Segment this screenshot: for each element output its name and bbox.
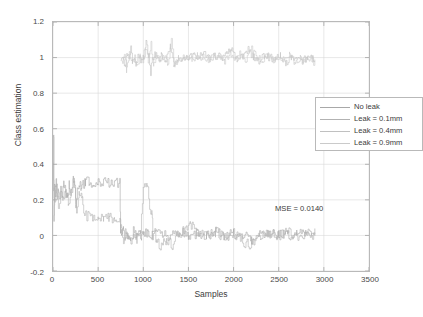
legend-item-leak-01mm: Leak = 0.1mm [316,113,422,125]
y-tick-label: 1 [40,52,44,61]
y-tick-label: 0.2 [33,196,44,205]
legend-swatch-leak-04mm [320,131,350,132]
x-tick-label: 1500 [179,275,197,284]
plot-area: MSE = 0.0140 No leak Leak = 0.1mm Leak =… [52,21,370,272]
y-tick-label: 0.4 [33,160,44,169]
legend-label-leak-04mm: Leak = 0.4mm [354,125,402,137]
x-tick-label: 0 [50,275,54,284]
x-tick-label: 2500 [270,275,288,284]
x-tick-label: 1000 [134,275,152,284]
y-tick-label: 0.6 [33,124,44,133]
x-tick-label: 3000 [316,275,334,284]
series-line [53,179,314,250]
legend-label-leak-01mm: Leak = 0.1mm [354,113,402,125]
y-tick-label: 1.2 [33,17,44,26]
y-tick-label: -0.2 [30,268,44,277]
y-tick-label: 0 [40,232,44,241]
legend-item-no-leak: No leak [316,101,422,113]
legend-swatch-leak-09mm [320,143,350,144]
x-tick-label: 2000 [225,275,243,284]
y-axis-tick-labels: -0.200.20.40.60.811.2 [0,21,49,272]
x-axis-tick-labels: 0500100015002000250030003500 [52,275,370,289]
series-line [121,40,315,75]
legend: No leak Leak = 0.1mm Leak = 0.4mm Leak =… [315,97,423,151]
y-tick-label: 0.8 [33,88,44,97]
legend-label-leak-09mm: Leak = 0.9mm [354,137,402,149]
mse-annotation: MSE = 0.0140 [275,204,323,213]
y-axis-label: Class estimation [13,50,23,180]
x-tick-label: 500 [91,275,104,284]
legend-item-leak-04mm: Leak = 0.4mm [316,125,422,137]
legend-label-no-leak: No leak [354,101,380,113]
legend-swatch-no-leak [320,107,350,108]
x-axis-label: Samples [52,289,370,299]
legend-swatch-leak-01mm [320,119,350,120]
legend-item-leak-09mm: Leak = 0.9mm [316,137,422,149]
x-tick-label: 3500 [361,275,379,284]
